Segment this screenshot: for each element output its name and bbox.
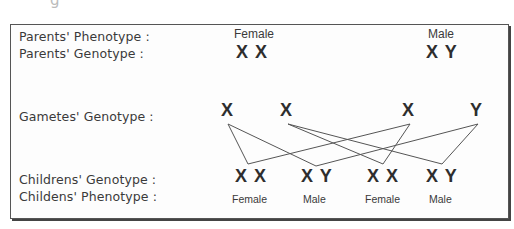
child-1-genotype: X X <box>235 166 267 187</box>
child-4-genotype: X Y <box>426 166 458 187</box>
child-3-phenotype: Female <box>365 193 400 205</box>
child-2-genotype: X Y <box>301 166 333 187</box>
child-4-phenotype: Male <box>429 193 452 205</box>
child-2-phenotype: Male <box>303 193 326 205</box>
child-1-phenotype: Female <box>232 193 267 205</box>
child-3-genotype: X X <box>367 166 399 187</box>
